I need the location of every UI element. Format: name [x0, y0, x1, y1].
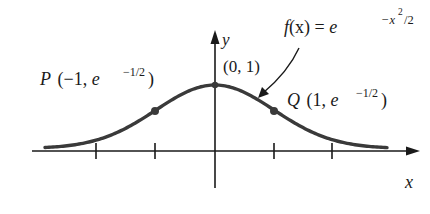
point-peak [212, 82, 218, 88]
svg-text:Q (1, e: Q (1, e [287, 90, 339, 111]
svg-text:P (−1, e: P (−1, e [39, 69, 100, 90]
svg-text:/2: /2 [404, 13, 414, 27]
svg-text:−1/2: −1/2 [356, 86, 378, 100]
y-axis-arrow-icon [211, 30, 220, 44]
svg-text:2: 2 [398, 7, 403, 17]
svg-text:−x: −x [381, 13, 395, 27]
peak-label: (0, 1) [223, 57, 260, 76]
point-q-label: Q (1, e −1/2 ) [287, 86, 387, 111]
x-axis-arrow-icon [406, 147, 420, 156]
annotation-arrow [263, 48, 299, 93]
svg-text:): ) [148, 69, 154, 90]
gaussian-diagram: y x (0, 1) f(x) = e −x 2 /2 P (−1, e −1/… [0, 0, 430, 214]
point-q [270, 107, 278, 115]
point-p [151, 107, 159, 115]
svg-text:−1/2: −1/2 [123, 65, 145, 79]
point-p-label: P (−1, e −1/2 ) [39, 65, 154, 90]
svg-text:): ) [381, 90, 387, 111]
x-axis-label: x [404, 172, 413, 192]
function-label: f(x) = e −x 2 /2 [284, 7, 414, 38]
y-axis-label: y [220, 30, 230, 49]
svg-text:f(x) = e: f(x) = e [284, 17, 337, 38]
